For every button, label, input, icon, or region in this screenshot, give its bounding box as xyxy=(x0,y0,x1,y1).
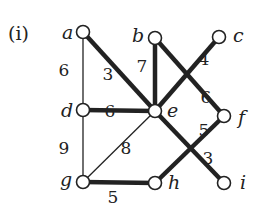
panel-label: (i) xyxy=(8,22,29,44)
node-g xyxy=(77,176,90,189)
edge-d-e xyxy=(83,110,155,111)
edge-weight-label: 7 xyxy=(137,56,148,76)
edge-weight-label: 6 xyxy=(201,87,212,107)
node-b xyxy=(149,32,162,45)
node-h xyxy=(149,177,162,190)
edge-weight-label: 5 xyxy=(108,187,119,205)
node-label-a: a xyxy=(62,21,73,43)
node-label-e: e xyxy=(167,99,178,121)
edge-weight-label: 3 xyxy=(203,148,214,168)
node-label-g: g xyxy=(60,168,72,190)
edge-g-e xyxy=(83,111,155,182)
node-e xyxy=(149,105,162,118)
node-c xyxy=(213,31,226,44)
weighted-graph: (i) 63764698553 abcdefghi xyxy=(0,0,260,205)
edge-weight-label: 8 xyxy=(121,138,132,158)
edge-b-f xyxy=(155,38,224,116)
node-label-b: b xyxy=(132,24,144,46)
node-f xyxy=(218,110,231,123)
edge-weight-label: 5 xyxy=(199,120,210,140)
node-i xyxy=(218,177,231,190)
node-label-f: f xyxy=(236,106,248,128)
edge-weight-label: 4 xyxy=(199,49,210,69)
edge-weight-label: 6 xyxy=(59,60,70,80)
edge-weight-label: 6 xyxy=(105,101,116,121)
node-label-c: c xyxy=(233,24,244,46)
edge-weight-label: 3 xyxy=(103,64,114,84)
node-d xyxy=(77,104,90,117)
edge-g-h xyxy=(83,182,155,183)
node-label-h: h xyxy=(168,171,180,193)
node-label-i: i xyxy=(240,171,246,193)
edge-weight-label: 9 xyxy=(59,138,70,158)
node-a xyxy=(77,26,90,39)
node-label-d: d xyxy=(61,99,73,121)
